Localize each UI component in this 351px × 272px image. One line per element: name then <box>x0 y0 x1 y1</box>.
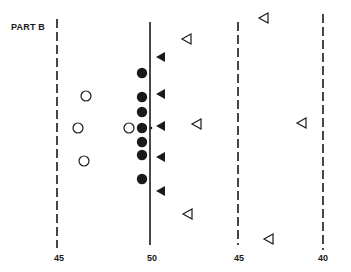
filled-circle-marker <box>137 174 147 184</box>
filled-circle-marker <box>137 107 147 117</box>
filled-circle-marker <box>137 92 147 102</box>
part-label: PART B <box>11 22 45 32</box>
filled-triangle-marker <box>156 152 165 162</box>
open-circle-marker <box>81 91 91 101</box>
filled-triangle-marker <box>156 52 165 62</box>
open-circle-marker <box>124 123 134 133</box>
filled-circle-marker <box>137 68 147 78</box>
open-circle-marker <box>73 123 83 133</box>
axis-tick-label: 45 <box>234 253 244 263</box>
filled-triangle-marker <box>156 186 165 196</box>
open-triangle-marker <box>264 234 273 244</box>
filled-circle-marker <box>137 150 147 160</box>
filled-circle-marker <box>137 123 147 133</box>
open-circle-marker <box>79 156 89 166</box>
open-triangle-marker <box>259 13 268 23</box>
axis-tick-label: 50 <box>147 253 157 263</box>
filled-triangle-marker <box>156 121 165 131</box>
reference-lines <box>57 14 323 250</box>
open-triangle-marker <box>182 34 191 44</box>
diagram-canvas <box>0 0 351 272</box>
open-triangle-marker <box>297 118 306 128</box>
filled-triangle-marker <box>156 89 165 99</box>
open-triangle-marker <box>183 209 192 219</box>
axis-tick-label: 45 <box>54 253 64 263</box>
data-markers <box>73 13 306 244</box>
filled-circle-marker <box>137 137 147 147</box>
axis-tick-label: 40 <box>318 253 328 263</box>
open-triangle-marker <box>192 119 201 129</box>
center-dot <box>150 127 153 130</box>
